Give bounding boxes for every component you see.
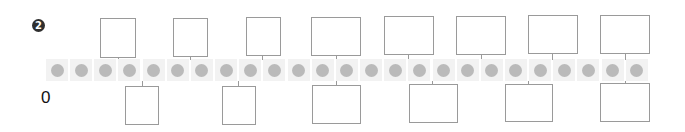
dot-icon — [558, 64, 571, 77]
number-line-start-label: 0 — [41, 88, 50, 108]
tile — [288, 59, 310, 81]
tile — [239, 59, 261, 81]
tile — [505, 59, 527, 81]
dot-icon — [509, 64, 522, 77]
tile — [263, 59, 285, 81]
dot-icon — [485, 64, 498, 77]
answer-box-top-6[interactable] — [456, 16, 506, 55]
number-line-strip — [46, 59, 648, 81]
problem-number-text: 2 — [35, 20, 42, 31]
dot-icon — [340, 64, 353, 77]
problem-number-marker: 2 — [32, 19, 45, 32]
tile — [602, 59, 624, 81]
tile — [433, 59, 455, 81]
dot-icon — [461, 64, 474, 77]
tile — [312, 59, 334, 81]
dot-icon — [389, 64, 402, 77]
tile — [457, 59, 479, 81]
tile — [94, 59, 116, 81]
answer-box-bottom-6[interactable] — [600, 83, 650, 122]
tile — [577, 59, 599, 81]
dot-icon — [630, 64, 643, 77]
dot-icon — [244, 64, 257, 77]
answer-box-top-5[interactable] — [384, 16, 434, 55]
tile — [143, 59, 165, 81]
dot-icon — [316, 64, 329, 77]
answer-box-top-3[interactable] — [246, 17, 281, 56]
dot-icon — [582, 64, 595, 77]
dot-icon — [220, 64, 233, 77]
dot-icon — [171, 64, 184, 77]
answer-box-top-1[interactable] — [100, 18, 136, 58]
answer-box-bottom-2[interactable] — [222, 86, 256, 125]
tile — [215, 59, 237, 81]
dot-icon — [51, 64, 64, 77]
dot-icon — [195, 64, 208, 77]
answer-box-bottom-3[interactable] — [312, 85, 361, 124]
answer-box-bottom-4[interactable] — [409, 84, 458, 123]
tile — [118, 59, 140, 81]
tile — [360, 59, 382, 81]
tile — [529, 59, 551, 81]
tile — [553, 59, 575, 81]
answer-box-top-2[interactable] — [173, 18, 208, 57]
tile — [336, 59, 358, 81]
dot-icon — [123, 64, 136, 77]
dot-icon — [437, 64, 450, 77]
dot-icon — [606, 64, 619, 77]
dot-icon — [75, 64, 88, 77]
dot-icon — [268, 64, 281, 77]
tile — [481, 59, 503, 81]
tile — [191, 59, 213, 81]
dot-icon — [147, 64, 160, 77]
dot-icon — [413, 64, 426, 77]
answer-box-top-4[interactable] — [311, 17, 361, 56]
tile — [626, 59, 648, 81]
dot-icon — [292, 64, 305, 77]
tile — [384, 59, 406, 81]
dot-icon — [99, 64, 112, 77]
answer-box-bottom-5[interactable] — [505, 84, 553, 122]
dot-icon — [365, 64, 378, 77]
tile — [167, 59, 189, 81]
tile — [70, 59, 92, 81]
tile — [408, 59, 430, 81]
answer-box-bottom-1[interactable] — [125, 86, 159, 125]
answer-box-top-8[interactable] — [600, 15, 650, 54]
dot-icon — [534, 64, 547, 77]
answer-box-top-7[interactable] — [528, 15, 578, 54]
tile — [46, 59, 68, 81]
